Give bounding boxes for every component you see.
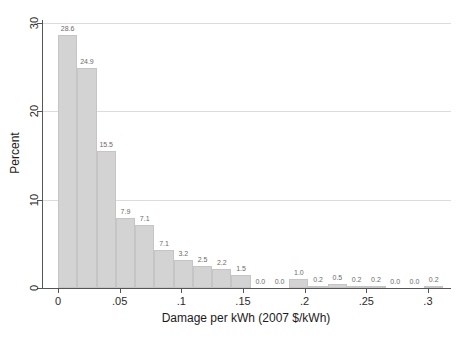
gridline — [43, 111, 451, 112]
y-axis-title: Percent — [8, 122, 22, 184]
x-tick-mark — [58, 288, 59, 293]
bar — [193, 266, 212, 288]
x-axis-title: Damage per kWh (2007 $/kWh) — [42, 311, 450, 325]
x-tick-label: 0 — [38, 295, 78, 307]
x-tick-label: .15 — [223, 295, 263, 307]
x-tick-label: .3 — [408, 295, 448, 307]
gridline — [43, 23, 451, 24]
bar-value-label: 7.1 — [149, 240, 179, 248]
bar-value-label: 7.1 — [130, 215, 160, 223]
bar — [97, 151, 116, 288]
bar-value-label: 1.5 — [226, 265, 256, 273]
bar — [328, 284, 347, 288]
y-tick-label: 10 — [28, 180, 40, 220]
bar — [366, 286, 385, 288]
x-tick-label: .1 — [161, 295, 201, 307]
plot-area: 28.624.915.57.97.17.13.22.52.21.50.00.01… — [42, 20, 451, 289]
x-tick-label: .05 — [100, 295, 140, 307]
x-tick-mark — [181, 288, 182, 293]
y-tick-label: 20 — [28, 91, 40, 131]
y-tick-label: 0 — [28, 268, 40, 308]
x-tick-label: .2 — [285, 295, 325, 307]
y-tick-label: 30 — [28, 3, 40, 43]
bar-value-label: 15.5 — [91, 141, 121, 149]
x-tick-mark — [243, 288, 244, 293]
bar — [174, 260, 193, 288]
bar — [77, 68, 96, 288]
x-tick-mark — [366, 288, 367, 293]
bar — [135, 225, 154, 288]
x-tick-label: .25 — [346, 295, 386, 307]
bar-value-label: 28.6 — [53, 25, 83, 33]
bar-value-label: 0.2 — [419, 276, 449, 284]
bar — [347, 286, 366, 288]
x-tick-mark — [305, 288, 306, 293]
bar — [116, 218, 135, 288]
histogram-chart: Percent 28.624.915.57.97.17.13.22.52.21.… — [0, 0, 462, 341]
bar-value-label: 24.9 — [72, 58, 102, 66]
x-tick-mark — [120, 288, 121, 293]
bar — [308, 286, 327, 288]
x-tick-mark — [428, 288, 429, 293]
bar — [58, 35, 77, 288]
